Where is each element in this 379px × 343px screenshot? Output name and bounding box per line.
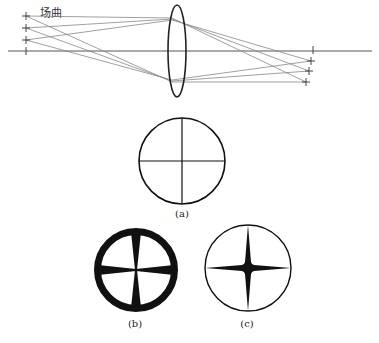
panel-c: (c)	[205, 225, 291, 329]
field-curvature-diagram: 场曲 (a)	[0, 0, 379, 343]
panel-a-label: (a)	[175, 208, 189, 219]
panel-b: (b)	[98, 232, 175, 330]
panel-a: (a)	[139, 118, 225, 219]
panel-b-label: (b)	[128, 318, 142, 329]
panel-c-label: (c)	[240, 318, 254, 329]
object-point-markers	[22, 12, 30, 55]
diagram-title: 场曲	[40, 6, 62, 20]
image-point-markers	[302, 46, 315, 86]
